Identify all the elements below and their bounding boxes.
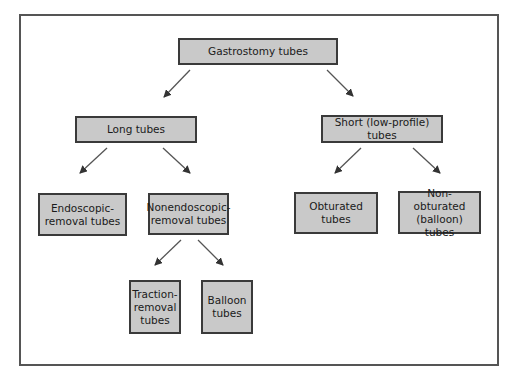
node-traction-removal-tubes: Traction-removal tubes <box>129 280 181 334</box>
node-endoscopic-removal-tubes: Endoscopic-removal tubes <box>38 193 127 236</box>
node-non-obturated-balloon-tubes: Non-obturated (balloon) tubes <box>398 191 481 234</box>
node-nonendoscopic-removal-tubes: Nonendoscopic-removal tubes <box>148 193 229 235</box>
node-label: Gastrostomy tubes <box>208 45 308 58</box>
node-label: Non-obturated (balloon) tubes <box>402 187 477 239</box>
node-label: Endoscopic-removal tubes <box>42 202 123 228</box>
node-balloon-tubes: Balloon tubes <box>201 280 253 334</box>
node-gastrostomy-tubes: Gastrostomy tubes <box>178 38 338 65</box>
node-label: Traction-removal tubes <box>132 288 177 327</box>
node-long-tubes: Long tubes <box>75 116 197 143</box>
node-label: Short (low-profile) tubes <box>325 116 439 142</box>
node-short-tubes: Short (low-profile) tubes <box>321 115 443 143</box>
node-label: Obturated tubes <box>298 200 374 226</box>
node-label: Balloon tubes <box>208 294 247 320</box>
node-obturated-tubes: Obturated tubes <box>294 192 378 234</box>
node-label: Nonendoscopic-removal tubes <box>147 201 231 227</box>
node-label: Long tubes <box>107 123 165 136</box>
